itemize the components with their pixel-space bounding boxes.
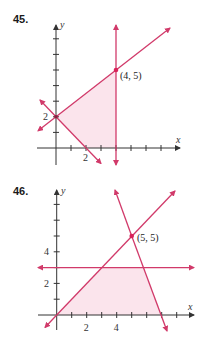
chart-45: y x 2 2 (4, 5): [37, 19, 181, 165]
x-tick-label-4-46: 4: [114, 322, 119, 333]
y-tick-label-2-45: 2: [43, 111, 48, 122]
x-tick-label-2-45: 2: [83, 152, 88, 163]
y-axis-label-45: y: [59, 19, 65, 30]
y-axis-label-46: y: [60, 185, 66, 196]
x-axis-label-46: x: [187, 301, 193, 312]
point-label-4-5: (4, 5): [120, 70, 142, 82]
point-label-5-5: (5, 5): [137, 232, 159, 244]
x-tick-label-2-46: 2: [84, 322, 89, 333]
line-y-eq-x-tail: [45, 315, 57, 328]
point-0-2: [54, 115, 58, 119]
x-axis-label-45: x: [175, 134, 181, 145]
point-5-5: [129, 234, 134, 239]
point-4-5: [114, 68, 119, 73]
line-steep-up: [115, 190, 132, 236]
charts-canvas: y x 2 2 (4, 5): [0, 0, 204, 355]
chart-46: y x 2 4 2 4 (5, 5): [38, 185, 194, 333]
y-tick-label-2-46: 2: [44, 278, 49, 289]
y-tick-label-4-46: 4: [44, 246, 49, 257]
